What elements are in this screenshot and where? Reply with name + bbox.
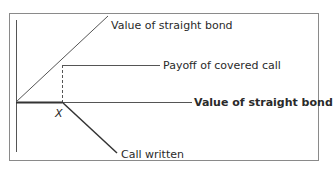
frame-border xyxy=(10,14,319,161)
straight-bond-diagonal-line xyxy=(16,16,108,102)
label-strike-x: X xyxy=(55,108,63,120)
label-straight-bond-horizontal: Value of straight bond xyxy=(194,97,333,109)
label-call-written: Call written xyxy=(121,149,184,161)
label-covered-call-payoff: Payoff of covered call xyxy=(163,60,281,72)
label-straight-bond-diagonal: Value of straight bond xyxy=(111,20,233,32)
call-written-line xyxy=(62,102,117,153)
